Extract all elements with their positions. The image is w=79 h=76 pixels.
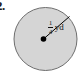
fraction-one-fourth: 1 4: [48, 20, 53, 35]
fraction-numerator: 1: [48, 20, 53, 27]
fraction-denominator: 4: [48, 29, 53, 36]
geometry-figure: 2. 1 4 yd: [0, 0, 79, 76]
item-number-label: 2.: [0, 0, 5, 12]
radius-measurement-label: 1 4 yd: [48, 20, 64, 35]
center-point-dot: [41, 36, 47, 42]
circle-diagram-svg: [0, 0, 79, 76]
unit-label: yd: [55, 23, 64, 32]
